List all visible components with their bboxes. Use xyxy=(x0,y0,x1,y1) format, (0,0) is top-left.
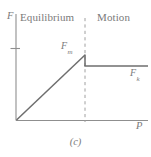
static-friction-ramp xyxy=(17,55,86,120)
kinetic-friction-subscript: k xyxy=(136,75,139,83)
figure-caption: (c) xyxy=(0,136,151,147)
kinetic-friction-label: Fk xyxy=(130,68,139,81)
y-axis-label: F xyxy=(7,11,13,22)
x-axis-label: P xyxy=(136,121,142,132)
region-label-motion: Motion xyxy=(97,12,130,23)
plot-canvas xyxy=(0,0,151,157)
max-static-friction-label: Fm xyxy=(61,41,72,54)
friction-force-figure: Equilibrium Motion F P Fm Fk (c) xyxy=(0,0,151,157)
region-label-equilibrium: Equilibrium xyxy=(20,12,74,23)
max-static-friction-subscript: m xyxy=(67,48,72,56)
